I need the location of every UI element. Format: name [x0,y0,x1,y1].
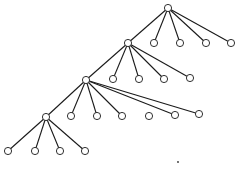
tree-node-circle [81,147,88,154]
tree-node-circle [135,75,142,82]
tree-node-circle [42,113,49,120]
tree-node-circle [67,112,74,119]
tree-edge [128,8,168,43]
tree-node-circle [176,39,183,46]
stray-dot [177,161,179,163]
tree-node-circle [145,112,152,119]
tree-edge [113,43,128,79]
tree-node-circle [93,112,100,119]
tree-node-circle [195,110,202,117]
tree-node-circle [118,112,125,119]
tree-edge [86,80,175,115]
tree-edge [46,80,86,117]
tree-diagram [0,0,239,169]
tree-edge [46,117,60,151]
tree-node-circle [150,39,157,46]
tree-node-circle [82,76,89,83]
tree-node-circle [164,4,171,11]
tree-edges [8,8,231,151]
tree-edge [71,80,86,116]
tree-node-circle [56,147,63,154]
tree-edge [154,8,168,43]
stray-marks [177,161,179,163]
tree-edge [86,43,128,80]
tree-node-circle [171,111,178,118]
tree-node-circle [227,39,234,46]
tree-edge [46,117,85,151]
tree-nodes [4,4,234,154]
tree-node-circle [31,147,38,154]
tree-node-circle [160,75,167,82]
tree-node-circle [4,147,11,154]
tree-node-circle [124,39,131,46]
tree-node-circle [202,39,209,46]
tree-node-circle [109,75,116,82]
tree-node-circle [186,74,193,81]
